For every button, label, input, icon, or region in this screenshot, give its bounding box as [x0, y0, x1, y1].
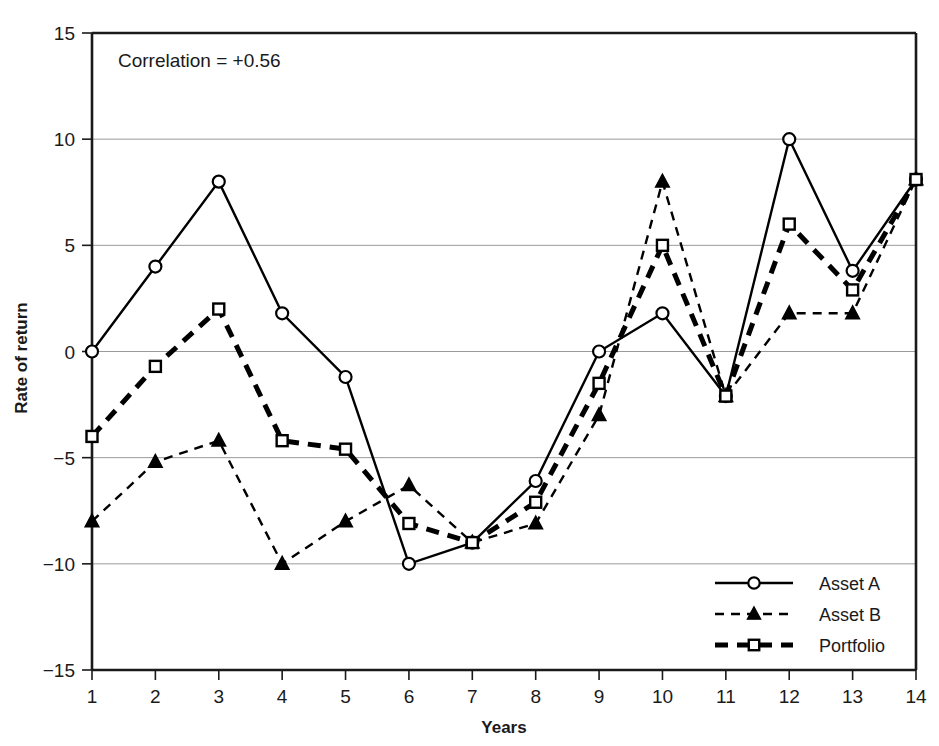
chart-container: 151050−5−10−15 1234567891011121314 Corre…	[0, 0, 939, 746]
square-marker	[467, 537, 478, 548]
square-marker	[277, 435, 288, 446]
circle-marker	[149, 261, 161, 273]
y-axis-title: Rate of return	[12, 302, 31, 413]
x-tick-label: 10	[652, 686, 673, 707]
circle-marker	[593, 346, 605, 358]
legend-label: Portfolio	[819, 636, 885, 656]
y-tick-label: −5	[53, 448, 75, 469]
x-tick-label: 11	[716, 686, 736, 707]
x-tick-label: 7	[467, 686, 478, 707]
x-tick-label: 9	[594, 686, 605, 707]
circle-marker	[86, 346, 98, 358]
x-tick-label: 8	[530, 686, 541, 707]
circle-marker	[656, 307, 668, 319]
circle-marker	[403, 558, 415, 570]
x-tick-label: 4	[277, 686, 288, 707]
x-tick-label: 5	[340, 686, 351, 707]
x-tick-label: 14	[905, 686, 927, 707]
chart-background	[0, 0, 939, 746]
square-marker	[911, 174, 922, 185]
x-tick-label: 3	[213, 686, 224, 707]
x-tick-label: 13	[842, 686, 863, 707]
square-marker	[784, 219, 795, 230]
legend-label: Asset B	[819, 605, 881, 625]
circle-marker	[847, 265, 859, 277]
circle-marker	[783, 133, 795, 145]
square-marker	[594, 378, 605, 389]
circle-marker	[340, 371, 352, 383]
square-marker	[150, 361, 161, 372]
y-tick-label: 0	[64, 342, 75, 363]
y-tick-label: 5	[64, 235, 75, 256]
y-tick-label: −10	[43, 554, 75, 575]
y-tick-label: 15	[54, 23, 75, 44]
x-axis-title: Years	[481, 718, 526, 737]
circle-marker	[748, 577, 759, 588]
square-marker	[340, 444, 351, 455]
square-marker	[657, 240, 668, 251]
correlation-annotation: Correlation = +0.56	[118, 50, 281, 71]
legend-label: Asset A	[819, 574, 880, 594]
square-marker	[213, 304, 224, 315]
square-marker	[403, 518, 414, 529]
square-marker	[530, 497, 541, 508]
circle-marker	[276, 307, 288, 319]
square-marker	[720, 391, 731, 402]
x-tick-label: 12	[779, 686, 800, 707]
circle-marker	[213, 176, 225, 188]
x-tick-label: 6	[404, 686, 415, 707]
circle-marker	[530, 475, 542, 487]
square-marker	[847, 284, 858, 295]
y-tick-label: −15	[43, 660, 75, 681]
y-tick-label: 10	[54, 129, 75, 150]
square-marker	[749, 640, 759, 650]
x-tick-label: 2	[150, 686, 161, 707]
x-tick-label: 1	[87, 686, 98, 707]
square-marker	[87, 431, 98, 442]
line-chart: 151050−5−10−15 1234567891011121314 Corre…	[0, 0, 939, 746]
